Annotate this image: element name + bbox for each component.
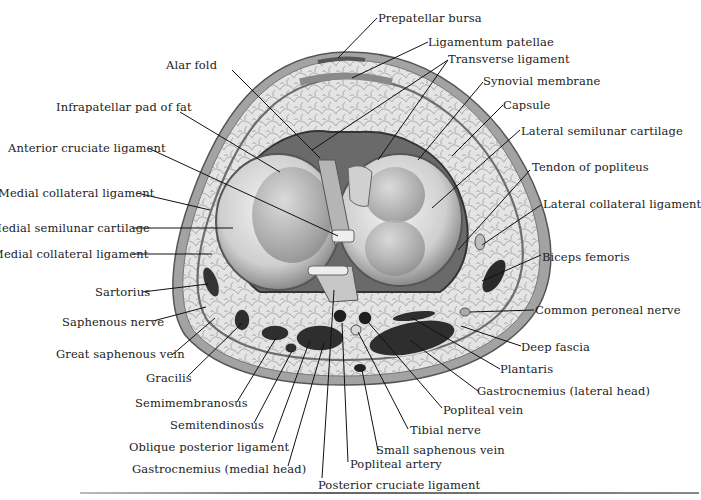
semitendinosus-muscle [285,343,297,353]
label-prepatellar-bursa: Prepatellar bursa [378,11,482,25]
label-infrapatellar-pad: Infrapatellar pad of fat [56,100,192,114]
label-semitendinosus: Semitendinosus [170,418,264,432]
label-anterior-cruciate: Anterior cruciate ligament [8,141,166,155]
label-posterior-cruciate: Posterior cruciate ligament [318,478,480,492]
label-popliteal-vein: Popliteal vein [443,403,523,417]
label-lateral-semilunar: Lateral semilunar cartilage [521,124,683,138]
label-lateral-collateral: Lateral collateral ligament [543,197,701,211]
label-capsule: Capsule [503,98,551,112]
label-biceps-femoris: Biceps femoris [542,250,630,264]
label-semimembranosus: Semimembranosus [135,396,248,410]
label-gastrocnemius-lateral: Gastrocnemius (lateral head) [477,384,650,398]
label-medial-collateral-2: Medial collateral ligament [0,247,148,261]
label-sartorius: Sartorius [95,285,150,299]
label-medial-collateral-1: Medial collateral ligament [0,186,154,200]
label-popliteal-artery: Popliteal artery [350,457,442,471]
label-gastrocnemius-medial: Gastrocnemius (medial head) [132,462,306,476]
tibial-nerve [351,325,361,335]
lateral-collateral [475,234,485,250]
page-rule [80,492,699,494]
label-synovial-membrane: Synovial membrane [483,74,600,88]
popliteal-vein [358,311,372,325]
label-saphenous-nerve: Saphenous nerve [62,315,164,329]
small-saphenous-vein [354,364,366,372]
gracilis-muscle [234,309,250,331]
label-medial-semilunar: Medial semilunar cartilage [0,221,150,235]
label-ligamentum-patellae: Ligamentum patellae [428,35,554,49]
label-deep-fascia: Deep fascia [521,340,590,354]
label-plantaris: Plantaris [500,362,553,376]
label-tendon-popliteus: Tendon of popliteus [532,160,649,174]
label-great-saphenous: Great saphenous vein [56,347,185,361]
label-tibial-nerve: Tibial nerve [410,423,481,437]
label-alar-fold: Alar fold [166,58,217,72]
label-small-saphenous: Small saphenous vein [376,443,505,457]
popliteal-artery [333,309,347,323]
label-gracilis: Gracilis [146,371,192,385]
label-transverse-ligament: Transverse ligament [448,52,570,66]
semimembranosus-muscle [261,325,289,341]
label-common-peroneal: Common peroneal nerve [535,303,681,317]
common-peroneal-nerve [460,308,470,316]
gastrocnemius-medial [296,325,344,351]
label-oblique-posterior: Oblique posterior ligament [129,440,289,454]
